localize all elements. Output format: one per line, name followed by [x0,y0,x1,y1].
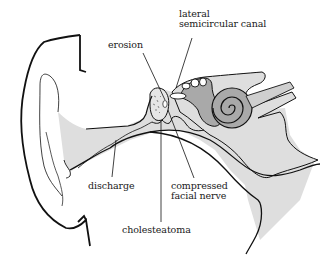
label-cholesteatoma: cholesteatoma [122,225,191,235]
cochlea [212,88,252,128]
head-outline-upper [80,35,86,72]
label-lateral-semicircular-canal: lateral semicircular canal [179,9,266,29]
erosion-spot [163,101,167,108]
label-discharge: discharge [88,181,134,191]
label-erosion: erosion [108,40,143,50]
label-compressed-facial-nerve: compressed facial nerve [171,181,228,201]
label-lateral-line2: semicircular canal [179,19,266,29]
pinna-antihelix [46,132,63,206]
ear-diagram: lateral semicircular canal erosion disch… [0,0,331,267]
label-compressed-line2: facial nerve [171,191,228,201]
